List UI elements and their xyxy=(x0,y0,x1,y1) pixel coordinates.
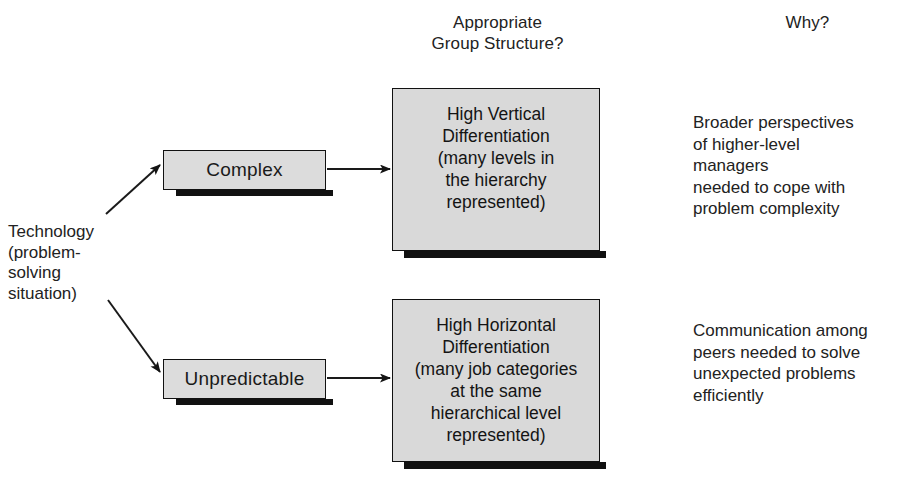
unpredictable-box-shadow xyxy=(176,399,333,405)
column-header-why: Why? xyxy=(705,12,910,33)
structure-box-high-horizontal-differentiation[interactable]: High Horizontal Differentiation (many jo… xyxy=(392,299,600,462)
horizontal-box-shadow xyxy=(404,462,606,469)
reason-text-unpredictable: Communication among peers needed to solv… xyxy=(693,320,922,406)
diagram-canvas: Appropriate Group Structure? Why? Techno… xyxy=(0,0,922,490)
structure-box-high-vertical-differentiation[interactable]: High Vertical Differentiation (many leve… xyxy=(392,88,600,251)
complex-box-shadow xyxy=(176,190,333,196)
condition-box-complex[interactable]: Complex xyxy=(163,150,326,190)
vertical-box-shadow xyxy=(404,251,606,258)
arrow-technology-to-complex xyxy=(106,165,160,214)
column-header-group-structure: Appropriate Group Structure? xyxy=(390,12,605,54)
condition-box-unpredictable[interactable]: Unpredictable xyxy=(163,359,326,399)
technology-source-label: Technology (problem- solving situation) xyxy=(8,222,140,304)
reason-text-complex: Broader perspectives of higher-level man… xyxy=(693,112,918,220)
arrow-technology-to-unpredictable xyxy=(108,300,160,372)
